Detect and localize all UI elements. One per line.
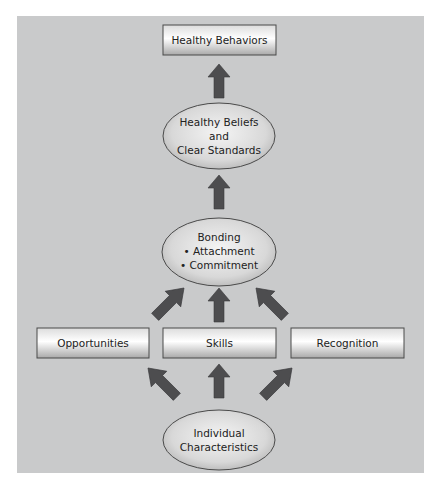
label-line: Recognition bbox=[317, 336, 379, 350]
up-arrow-icon bbox=[208, 364, 230, 398]
individual-characteristics-label: Individual Characteristics bbox=[163, 410, 275, 470]
healthy-behaviors-label: Healthy Behaviors bbox=[163, 25, 276, 55]
diagonal-arrow-icon bbox=[147, 280, 191, 324]
opportunities-label: Opportunities bbox=[37, 328, 149, 358]
recognition-label: Recognition bbox=[291, 328, 404, 358]
label-line: Opportunities bbox=[57, 336, 129, 350]
diagonal-arrow-icon bbox=[255, 360, 299, 404]
label-line: and bbox=[209, 129, 229, 143]
label-line: • Commitment bbox=[180, 258, 258, 272]
label-line: Clear Standards bbox=[177, 143, 261, 157]
label-line: Healthy Behaviors bbox=[171, 33, 267, 47]
up-arrow-icon bbox=[208, 64, 230, 98]
label-line: Healthy Beliefs bbox=[179, 115, 258, 129]
bonding-label: Bonding • Attachment • Commitment bbox=[162, 218, 276, 284]
label-line: Bonding bbox=[197, 230, 240, 244]
up-arrow-icon bbox=[208, 175, 230, 209]
skills-label: Skills bbox=[163, 328, 276, 358]
diagonal-arrow-icon bbox=[140, 360, 184, 404]
label-line: Individual bbox=[193, 426, 244, 440]
up-arrow-icon bbox=[208, 288, 230, 322]
diagonal-arrow-icon bbox=[248, 280, 292, 324]
label-line: Skills bbox=[206, 336, 233, 350]
healthy-beliefs-label: Healthy Beliefs and Clear Standards bbox=[163, 103, 275, 169]
label-line: Characteristics bbox=[180, 440, 259, 454]
label-line: • Attachment bbox=[183, 244, 254, 258]
